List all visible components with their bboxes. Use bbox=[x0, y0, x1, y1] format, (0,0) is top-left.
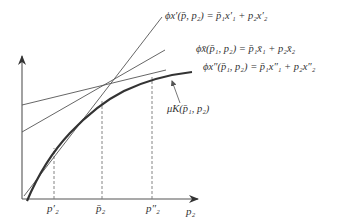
curve-label-pointer bbox=[172, 81, 180, 103]
equation-label-x-doubleprime: ϕx″(p̄₁, p₂) = p̄₁x″₁ + p₂x″₂ bbox=[203, 62, 315, 73]
tangent-line-x-bar bbox=[22, 50, 165, 132]
tick-label-p2-doubleprime: p″₂ bbox=[146, 203, 160, 214]
x-axis-label: p₂ bbox=[186, 206, 195, 217]
curve-label-mu-k: μK(p̄₁, p₂) bbox=[167, 104, 209, 115]
tick-label-p2-bar: p̄₂ bbox=[96, 203, 105, 214]
concave-curve-mu-k bbox=[27, 72, 192, 201]
tangent-line-x-prime bbox=[24, 17, 162, 196]
tangent-line-x-doubleprime bbox=[22, 70, 166, 105]
tick-label-p2-prime: p′₂ bbox=[47, 203, 59, 214]
equation-label-x-prime: ϕx′(p̄, p₂) = p̄₁x′₁ + p₂x′₂ bbox=[165, 11, 267, 22]
equation-label-x-bar: ϕx̄(p̄₁, p₂) = p̄₁x̄₁ + p₂x̄₂ bbox=[196, 44, 295, 55]
